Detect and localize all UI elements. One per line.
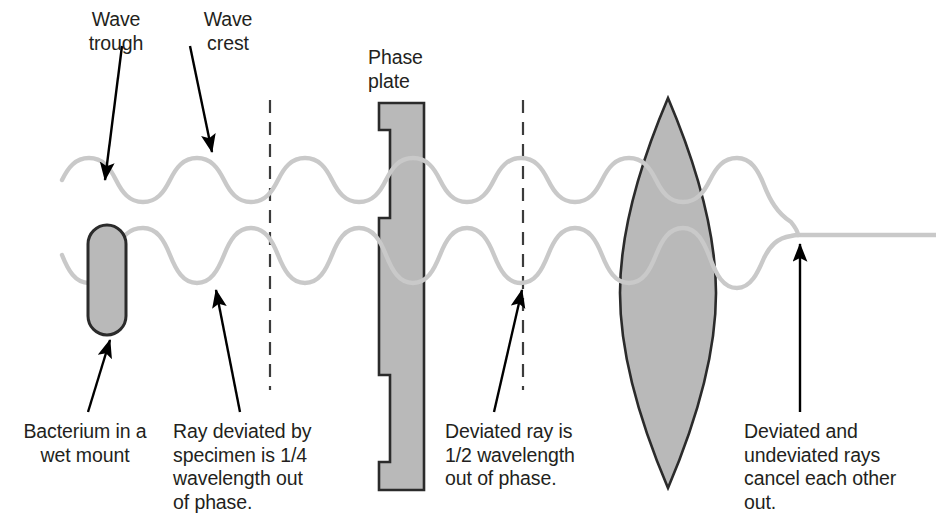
leader-ray-deviated <box>216 290 240 412</box>
figure-canvas: Wave trough Wave crest Phase plate Bacte… <box>0 0 936 531</box>
label-phase-plate: Phase plate <box>368 46 464 93</box>
leader-wave-trough <box>105 46 122 180</box>
label-wave-trough: Wave trough <box>56 8 176 55</box>
label-wave-crest: Wave crest <box>168 8 288 55</box>
leader-wave-crest <box>190 46 212 152</box>
label-deviated-half-wavelength: Deviated ray is 1/2 wavelength out of ph… <box>445 420 613 491</box>
label-bacterium: Bacterium in a wet mount <box>6 420 164 467</box>
label-rays-cancel: Deviated and undeviated rays cancel each… <box>744 420 926 514</box>
leader-deviated-half <box>494 290 522 412</box>
label-ray-deviated-quarter: Ray deviated by specimen is 1/4 waveleng… <box>173 420 325 514</box>
bacterium-capsule <box>88 225 126 335</box>
leader-bacterium <box>88 340 110 412</box>
